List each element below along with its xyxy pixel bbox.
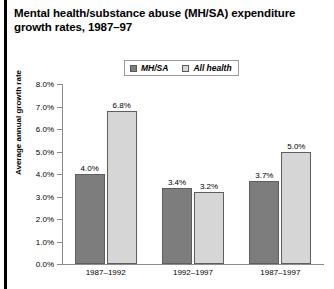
bar-group: 3.7%5.0% xyxy=(249,84,311,264)
y-axis-tick-label: 7.0% xyxy=(36,102,54,111)
y-axis-tick xyxy=(57,219,62,220)
y-axis-tick-label: 1.0% xyxy=(36,237,54,246)
bar: 6.8% xyxy=(107,111,137,264)
legend-swatch-mhsa xyxy=(130,65,137,72)
y-axis-tick-label: 5.0% xyxy=(36,147,54,156)
y-axis-tick xyxy=(57,107,62,108)
x-axis-line xyxy=(62,264,324,265)
chart-figure: Mental health/substance abuse (MH/SA) ex… xyxy=(0,0,334,289)
x-axis-label: 1987–1992 xyxy=(62,268,149,277)
legend-label-mhsa: MH/SA xyxy=(141,63,168,73)
bar: 3.4% xyxy=(162,188,192,265)
plot-area: 0.0%1.0%2.0%3.0%4.0%5.0%6.0%7.0%8.0% 4.0… xyxy=(62,84,324,264)
x-axis-label: 1992–1997 xyxy=(149,268,236,277)
y-axis-tick xyxy=(57,84,62,85)
bar-value-label: 4.0% xyxy=(81,164,99,173)
bar-group: 3.4%3.2% xyxy=(162,84,224,264)
y-axis-tick xyxy=(57,242,62,243)
x-axis-label: 1987–1997 xyxy=(237,268,324,277)
legend-swatch-all-health xyxy=(182,65,189,72)
y-axis-tick-label: 2.0% xyxy=(36,215,54,224)
legend-entry-mhsa: MH/SA xyxy=(130,63,168,73)
y-axis-tick-label: 4.0% xyxy=(36,170,54,179)
bar-value-label: 3.2% xyxy=(200,182,218,191)
y-axis-tick-label: 0.0% xyxy=(36,260,54,269)
figure-left-rule xyxy=(4,0,7,289)
bar-value-label: 3.4% xyxy=(168,178,186,187)
chart-title: Mental health/substance abuse (MH/SA) ex… xyxy=(14,6,326,34)
y-axis-title: Average annual growth rate xyxy=(14,64,23,182)
chart-legend: MH/SA All health xyxy=(124,60,239,76)
y-axis-tick-label: 8.0% xyxy=(36,80,54,89)
bar: 3.7% xyxy=(249,181,279,264)
legend-label-all-health: All health xyxy=(193,63,231,73)
y-axis-line xyxy=(62,84,63,264)
y-axis-tick-label: 6.0% xyxy=(36,125,54,134)
bar-group: 4.0%6.8% xyxy=(75,84,137,264)
y-axis-tick xyxy=(57,129,62,130)
bar: 3.2% xyxy=(194,192,224,264)
bar-value-label: 6.8% xyxy=(113,101,131,110)
bar: 5.0% xyxy=(281,152,311,265)
y-axis-tick xyxy=(57,197,62,198)
y-axis-tick-label: 3.0% xyxy=(36,192,54,201)
y-axis-tick xyxy=(57,264,62,265)
legend-entry-all-health: All health xyxy=(182,63,231,73)
bar-value-label: 5.0% xyxy=(287,142,305,151)
bar-value-label: 3.7% xyxy=(255,171,273,180)
bar: 4.0% xyxy=(75,174,105,264)
y-axis-tick xyxy=(57,174,62,175)
y-axis-tick xyxy=(57,152,62,153)
